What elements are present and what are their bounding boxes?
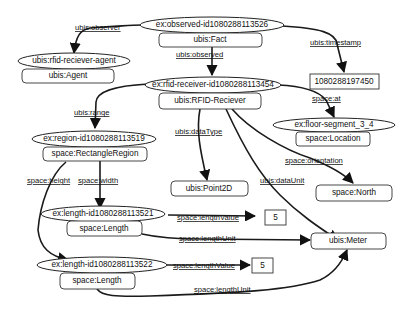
- node-agent-id: ubis:rfid-reciever-agent: [32, 56, 116, 65]
- node-meter: ubis:Meter: [311, 233, 386, 249]
- node-length-2-type: space:Length: [72, 276, 122, 285]
- value-2-literal: 5: [260, 261, 265, 270]
- edge-label-orientation: space:orientation: [285, 156, 343, 165]
- node-agent: ubis:rfid-reciever-agent ubis:Agent: [18, 53, 130, 83]
- edge-label-dataType: ubis:dataType: [175, 127, 222, 136]
- node-location-id: ex:floor-segment_3_4: [294, 120, 374, 129]
- rdf-graph-diagram: ubis:observer ubis:timestamp ubis:observ…: [0, 0, 417, 320]
- edge-dataType: [198, 109, 207, 180]
- node-region-id: ex:region-id1080288113519: [43, 134, 145, 143]
- node-length-2: ex:length-id1080288113522 space:Length: [37, 257, 167, 289]
- node-receiver: ex:rfid-receiver-id1080288113454 ubis:RF…: [145, 77, 281, 109]
- node-location: ex:floor-segment_3_4 space:Location: [273, 118, 395, 146]
- node-region: ex:region-id1080288113519 space:Rectangl…: [32, 131, 156, 161]
- edge-range: [95, 84, 148, 128]
- edge-label-lengthUnit-2: space:lengthUnit: [194, 285, 251, 294]
- edge-label-at: space:at: [312, 94, 342, 103]
- node-receiver-id: ex:rfid-receiver-id1080288113454: [152, 80, 274, 89]
- edge-label-observer: ubis:observer: [75, 23, 121, 32]
- value-1-literal: 5: [273, 213, 278, 222]
- node-north-label: space:North: [332, 188, 377, 197]
- edge-label-range: ubis:range: [74, 108, 109, 117]
- node-length-2-id: ex:length-id1080288113522: [52, 260, 153, 269]
- edge-label-width: space:width: [78, 176, 118, 185]
- node-point2d-label: ubis:Point2D: [186, 184, 233, 193]
- node-point2d: ubis:Point2D: [171, 181, 248, 196]
- edge-label-timestamp: ubis:timestamp: [310, 38, 361, 47]
- node-meter-label: ubis:Meter: [329, 236, 367, 245]
- node-receiver-type: ubis:RFID-Reciever: [174, 96, 246, 105]
- edge-timestamp: [282, 26, 344, 72]
- edge-label-observed: ubis:observed: [176, 50, 223, 59]
- timestamp-literal: 1080288197450: [314, 77, 374, 86]
- node-fact-id: ex:observed-id1080288113526: [156, 20, 269, 29]
- node-region-type: space:RectangleRegion: [52, 149, 139, 158]
- node-north: space:North: [316, 185, 392, 201]
- node-location-type: space:Location: [305, 134, 361, 143]
- node-value-2: 5: [252, 258, 273, 273]
- node-value-1: 5: [265, 210, 286, 225]
- edge-label-lengthValue-2: space:lengthValue: [173, 261, 235, 270]
- node-length-1: ex:length-id1080288113521 space:Length: [41, 206, 165, 236]
- edge-label-dataUnit: ubis:dataUnit: [260, 176, 305, 185]
- edge-label-lengthUnit-1: space:lengthUnit: [179, 234, 236, 243]
- node-length-1-type: space:Length: [79, 224, 129, 233]
- node-agent-type: ubis:Agent: [49, 71, 88, 80]
- node-fact-type: ubis:Fact: [193, 35, 227, 44]
- node-fact: ex:observed-id1080288113526 ubis:Fact: [140, 17, 284, 47]
- node-timestamp-value: 1080288197450: [310, 74, 379, 89]
- edge-label-height: space:height: [27, 176, 71, 185]
- edge-label-lengthValue-1: space:lengthValue: [177, 213, 239, 222]
- node-length-1-id: ex:length-id1080288113521: [53, 209, 154, 218]
